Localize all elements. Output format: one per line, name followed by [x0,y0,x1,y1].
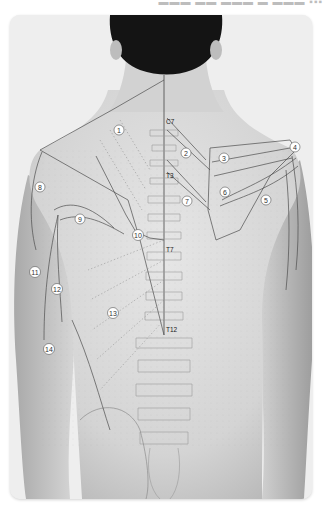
svg-text:3: 3 [222,155,226,162]
svg-text:13: 13 [109,310,117,317]
svg-text:5: 5 [264,197,268,204]
callout-10: 10 [133,230,144,241]
right-ear [210,40,222,60]
callout-4: 4 [290,142,300,152]
svg-text:9: 9 [78,216,82,223]
callout-6: 6 [220,187,230,197]
svg-text:12: 12 [53,286,61,293]
svg-text:2: 2 [184,150,188,157]
svg-text:11: 11 [31,269,38,276]
svg-text:8: 8 [38,184,42,191]
svg-text:6: 6 [223,189,227,196]
callout-14: 14 [44,344,55,355]
callout-12: 12 [52,284,63,295]
svg-text:10: 10 [134,232,142,239]
callout-7: 7 [182,196,192,206]
back-anatomy-illustration: C7 T3 T7 T12 1 2 3 4 5 6 7 8 9 10 11 12 … [10,15,312,499]
vertebra-label-c7: C7 [166,118,175,125]
anatomy-figure: C7 T3 T7 T12 1 2 3 4 5 6 7 8 9 10 11 12 … [10,15,312,499]
callout-3: 3 [219,153,229,163]
svg-text:4: 4 [293,144,297,151]
callout-5: 5 [261,195,271,205]
vertebra-label-t12: T12 [166,326,178,333]
left-ear [110,40,122,60]
svg-text:1: 1 [117,127,121,134]
page-header-strip: ▬▬▬ ▬▬ ▬▬▬ ▬ ▬▬▬ ▪▪▪ [0,0,329,12]
svg-text:14: 14 [45,346,53,353]
callout-9: 9 [75,214,85,224]
callout-11: 11 [30,267,41,278]
callout-1: 1 [114,125,124,135]
callout-8: 8 [35,182,45,192]
callout-13: 13 [108,308,119,319]
vertebra-label-t7: T7 [166,246,174,253]
vertebra-label-t3: T3 [166,172,174,179]
callout-2: 2 [181,148,191,158]
svg-text:7: 7 [185,198,189,205]
cropped-header-text: ▬▬▬ ▬▬ ▬▬▬ ▬ ▬▬▬ ▪▪▪ [158,0,323,7]
